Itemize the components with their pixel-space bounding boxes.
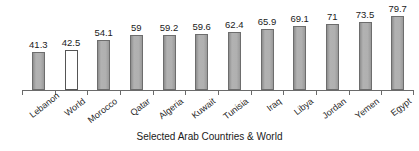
bar-group: 65.9 (251, 8, 284, 90)
x-axis-category-label: Kuwait (190, 96, 217, 121)
bar (130, 35, 143, 90)
x-axis-category-labels: LebanonWorldMoroccoQatarAlgeriaKuwaitTun… (22, 96, 414, 130)
bar-group: 41.3 (22, 8, 55, 90)
bar (391, 16, 404, 90)
x-axis-tick (316, 90, 317, 95)
bar (195, 34, 208, 90)
x-axis-ticks (22, 90, 414, 95)
x-axis-category-label: Egypt (389, 96, 413, 118)
bar (97, 40, 110, 90)
bar-group: 79.7 (381, 8, 414, 90)
bar-value-label: 73.5 (356, 9, 375, 20)
x-axis-tick (251, 90, 252, 95)
x-axis-category-label: Iraq (265, 96, 283, 113)
bar-group: 59 (120, 8, 153, 90)
bar (359, 22, 372, 90)
bar (163, 35, 176, 90)
bar-group: 62.4 (218, 8, 251, 90)
bar (326, 24, 339, 90)
bar-value-label: 42.5 (62, 37, 81, 48)
bar-group: 73.5 (349, 8, 382, 90)
bar (261, 29, 274, 90)
x-axis-category-label: Yemen (353, 96, 381, 121)
x-axis-category-label: Qatar (128, 96, 152, 118)
x-axis-category-label-wrap: Lebanon (28, 96, 55, 120)
bar-value-label: 59.2 (160, 22, 179, 33)
x-axis-tick (413, 90, 414, 95)
bar (65, 50, 78, 90)
bar-group: 69.1 (283, 8, 316, 90)
bar-group: 71 (316, 8, 349, 90)
x-axis-tick (381, 90, 382, 95)
bar-group: 54.1 (87, 8, 120, 90)
bar-value-label: 65.9 (258, 16, 277, 27)
x-axis-tick (22, 90, 23, 95)
bar-value-label: 69.1 (290, 13, 309, 24)
bar-value-label: 71 (327, 11, 338, 22)
x-axis-category-label: Libya (292, 96, 315, 117)
x-axis-tick (87, 90, 88, 95)
bar (32, 52, 45, 90)
bar-chart: 41.342.554.15959.259.662.465.969.17173.5… (0, 0, 419, 151)
x-axis-category-label: Jordan (320, 96, 348, 121)
plot-area: 41.342.554.15959.259.662.465.969.17173.5… (22, 8, 414, 90)
bar-value-label: 41.3 (29, 39, 48, 50)
bar (228, 32, 241, 90)
x-axis-tick (153, 90, 154, 95)
bar (293, 26, 306, 90)
bar-value-label: 62.4 (225, 19, 244, 30)
bar-value-label: 59 (131, 22, 142, 33)
x-axis-category-label: Algeria (157, 96, 185, 121)
x-axis-tick (283, 90, 284, 95)
x-axis-tick (218, 90, 219, 95)
bar-group: 42.5 (55, 8, 88, 90)
x-axis-title: Selected Arab Countries & World (0, 131, 419, 142)
x-axis-tick (120, 90, 121, 95)
x-axis-tick (185, 90, 186, 95)
x-axis-category-label: World (63, 96, 88, 118)
bar-group: 59.2 (153, 8, 186, 90)
bar-value-label: 79.7 (388, 3, 407, 14)
bar-group: 59.6 (185, 8, 218, 90)
bar-value-label: 54.1 (94, 27, 113, 38)
bar-value-label: 59.6 (192, 21, 211, 32)
x-axis-tick (349, 90, 350, 95)
x-axis-category-label: Tunisia (221, 96, 250, 122)
